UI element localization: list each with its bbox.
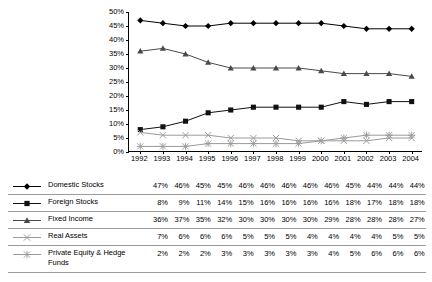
y-axis-tick-label: 15% <box>109 106 124 114</box>
table-cell-value: 9% <box>171 198 189 207</box>
square-marker <box>160 124 165 129</box>
diamond-marker <box>363 26 369 32</box>
series-foreign-stocks <box>138 99 414 132</box>
table-cell-value: 5% <box>257 232 275 241</box>
table-cell-value: 32% <box>214 215 232 224</box>
square-marker <box>341 99 346 104</box>
asterisk-marker <box>386 132 393 139</box>
diamond-marker <box>137 17 143 23</box>
table-cell-value: 36% <box>150 215 168 224</box>
table-cell-value: 16% <box>300 198 318 207</box>
table-cell-value: 5% <box>278 232 296 241</box>
x-axis-tick-label: 2004 <box>402 154 419 163</box>
table-cell-value: 3% <box>236 249 254 258</box>
series-private-equity-hedge-funds <box>137 132 416 150</box>
x-axis-tick-label: 1992 <box>131 154 148 163</box>
square-marker <box>387 99 392 104</box>
x-axis-tick-label: 2001 <box>335 154 352 163</box>
table-cell-value: 28% <box>364 215 382 224</box>
diamond-marker <box>250 20 256 26</box>
table-row: Private Equity & Hedge Funds2%2%2%3%3%3%… <box>8 246 426 273</box>
asterisk-marker <box>182 143 189 150</box>
x-axis-tick-label: 2002 <box>357 154 374 163</box>
series-lines <box>129 12 423 152</box>
y-axis-tick-label: 0% <box>113 148 124 156</box>
y-axis-tick-label: 35% <box>109 50 124 58</box>
x-axis-tick-label: 1999 <box>289 154 306 163</box>
table-cell-value: 4% <box>300 232 318 241</box>
square-marker <box>364 102 369 107</box>
table-cell-value: 3% <box>257 249 275 258</box>
series-fixed-income <box>137 45 415 79</box>
y-axis-tick <box>126 26 129 27</box>
y-axis-tick-label: 10% <box>109 120 124 128</box>
y-axis-tick <box>126 54 129 55</box>
table-cell-value: 46% <box>278 181 296 190</box>
legend-series-label: Fixed Income <box>48 214 143 224</box>
square-marker <box>296 105 301 110</box>
table-cell-value: 15% <box>236 198 254 207</box>
y-axis-tick <box>126 12 129 13</box>
y-axis-tick-label: 25% <box>109 78 124 86</box>
table-cell-value: 4% <box>343 232 361 241</box>
table-cell-value: 27% <box>407 215 425 224</box>
table-cell-value: 30% <box>257 215 275 224</box>
table-cell-value: 30% <box>300 215 318 224</box>
table-cell-value: 45% <box>214 181 232 190</box>
x-axis-tick-label: 1996 <box>221 154 238 163</box>
line-chart: 0%5%10%15%20%25%30%35%40%45%50% 19921993… <box>0 0 432 168</box>
y-axis-tick <box>126 138 129 139</box>
legend-marker-swatch <box>12 199 42 208</box>
triangle-marker <box>160 45 166 51</box>
table-cell-value: 46% <box>171 181 189 190</box>
table-cell-value: 16% <box>257 198 275 207</box>
table-cell-value: 6% <box>214 232 232 241</box>
legend-series-label: Private Equity & Hedge Funds <box>48 248 143 267</box>
table-cell-value: 4% <box>364 232 382 241</box>
table-row: Domestic Stocks47%46%45%45%46%46%46%46%4… <box>8 178 426 195</box>
square-marker <box>138 127 143 132</box>
square-marker <box>24 201 29 206</box>
x-axis-tick-label: 1994 <box>176 154 193 163</box>
x-axis-tick-label: 1995 <box>199 154 216 163</box>
asterisk-marker <box>318 137 325 144</box>
table-cell-value: 30% <box>236 215 254 224</box>
table-cell-value: 18% <box>343 198 361 207</box>
table-cell-value: 5% <box>343 249 361 258</box>
diamond-marker <box>228 20 234 26</box>
square-marker <box>251 105 256 110</box>
y-axis-tick <box>126 40 129 41</box>
table-cell-value: 14% <box>214 198 232 207</box>
diamond-marker <box>318 20 324 26</box>
table-cell-value: 6% <box>171 232 189 241</box>
legend-series-label: Foreign Stocks <box>48 197 143 207</box>
x-axis-tick-label: 2003 <box>380 154 397 163</box>
square-marker <box>206 110 211 115</box>
y-axis-tick <box>126 68 129 69</box>
asterisk-marker <box>340 134 347 141</box>
table-row: Real Assets7%6%6%6%5%5%5%4%4%4%4%5%5% <box>8 229 426 246</box>
table-cell-value: 3% <box>300 249 318 258</box>
x-axis-labels: 1992199319941995199619971998199920002001… <box>128 154 422 166</box>
square-marker <box>273 105 278 110</box>
asterisk-marker <box>272 140 279 147</box>
y-axis-tick-label: 20% <box>109 92 124 100</box>
table-cell-value: 8% <box>150 198 168 207</box>
table-row: Fixed Income36%37%35%32%30%30%30%30%29%2… <box>8 212 426 229</box>
legend-marker-swatch <box>12 216 42 225</box>
y-axis-tick-label: 5% <box>113 134 124 142</box>
asterisk-marker <box>295 140 302 147</box>
x-axis-tick-label: 2000 <box>312 154 329 163</box>
table-cell-value: 16% <box>278 198 296 207</box>
y-axis-tick <box>126 152 129 153</box>
table-cell-value: 2% <box>171 249 189 258</box>
diamond-marker <box>205 23 211 29</box>
plot-area <box>128 12 422 152</box>
table-cell-value: 44% <box>385 181 403 190</box>
table-cell-value: 6% <box>193 232 211 241</box>
y-axis-tick <box>126 110 129 111</box>
table-cell-value: 17% <box>364 198 382 207</box>
table-cell-value: 18% <box>407 198 425 207</box>
y-axis-tick-label: 30% <box>109 64 124 72</box>
table-cell-value: 3% <box>214 249 232 258</box>
